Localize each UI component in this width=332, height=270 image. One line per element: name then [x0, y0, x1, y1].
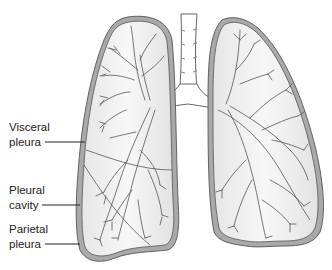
label-line: Pleural — [9, 183, 45, 198]
label-parietal-pleura: Parietal pleura — [9, 222, 48, 252]
label-pleural-cavity: Pleural cavity — [9, 183, 45, 213]
label-line: pleura — [9, 237, 48, 252]
right-visceral-pleura — [213, 22, 318, 242]
label-line: cavity — [9, 198, 45, 213]
left-lung — [76, 16, 178, 261]
lung-pleura-diagram — [0, 0, 332, 270]
label-line: Visceral — [9, 120, 50, 135]
label-visceral-pleura: Visceral pleura — [9, 120, 50, 150]
right-lung — [208, 18, 323, 247]
left-visceral-pleura — [82, 21, 174, 256]
label-line: pleura — [9, 135, 50, 150]
label-line: Parietal — [9, 222, 48, 237]
